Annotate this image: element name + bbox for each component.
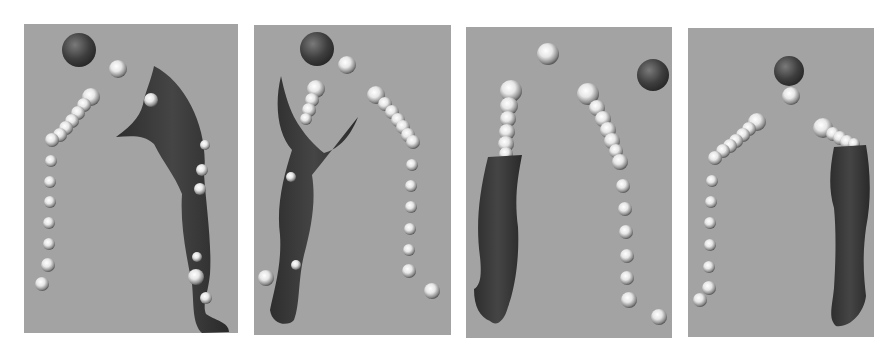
head-sphere — [637, 59, 669, 91]
leg-model-scene-3 — [466, 27, 672, 338]
head-sphere — [774, 56, 804, 86]
leg-model-scene-1 — [24, 24, 238, 333]
leg-mesh — [474, 155, 522, 323]
render-panel-4 — [688, 28, 874, 337]
leg-model-scene-4 — [688, 28, 874, 337]
head-sphere — [300, 32, 334, 66]
leg-mesh — [830, 145, 870, 326]
leg-mesh — [116, 66, 229, 333]
head-sphere — [62, 33, 96, 67]
render-panel-1 — [24, 24, 238, 333]
leg-model-scene-2 — [254, 25, 451, 335]
render-panel-2 — [254, 25, 451, 335]
render-panel-3 — [466, 27, 672, 338]
